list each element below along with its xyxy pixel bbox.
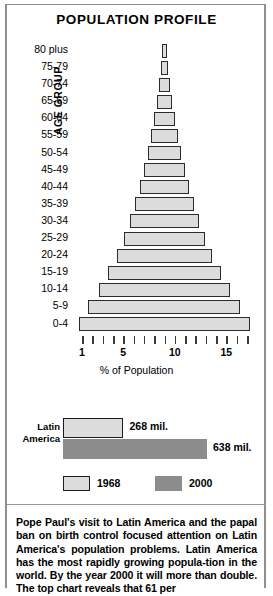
- axis-tick: [82, 336, 84, 344]
- pyramid-bar: [140, 180, 190, 194]
- pyramid-row: 15-19: [0, 264, 273, 281]
- age-group-label: 40-44: [0, 180, 68, 192]
- pyramid-row: 25-29: [0, 230, 273, 247]
- pyramid-row: 70-74: [0, 76, 273, 93]
- axis-tick-label: 15: [221, 346, 233, 358]
- age-group-label: 10-14: [0, 282, 68, 294]
- axis-tick: [165, 336, 167, 344]
- pyramid-row: 80 plus: [0, 42, 273, 59]
- population-pyramid-chart: 80 plus75-7970-7465-6960-6455-5950-5445-…: [0, 42, 273, 334]
- legend-label: 1968: [97, 477, 120, 489]
- age-group-label: 25-29: [0, 231, 68, 243]
- pyramid-bar: [144, 163, 186, 177]
- pyramid-row: 10-14: [0, 281, 273, 298]
- age-group-label: 80 plus: [0, 43, 68, 55]
- pyramid-bar: [130, 214, 199, 228]
- pyramid-row: 55-59: [0, 127, 273, 144]
- axis-tick: [92, 336, 94, 344]
- comparison-bar-2000: [63, 439, 207, 459]
- pyramid-bar: [151, 129, 178, 143]
- legend-swatch-2000: [155, 476, 182, 491]
- axis-tick-label: 10: [169, 346, 181, 358]
- axis-tick: [134, 336, 136, 344]
- pyramid-bar: [148, 146, 181, 160]
- axis-tick: [175, 336, 177, 344]
- axis-tick: [247, 336, 249, 344]
- pyramid-bar: [108, 266, 220, 280]
- region-label-line1: Latin: [37, 421, 60, 432]
- pyramid-bar: [162, 44, 167, 58]
- age-group-label: 20-24: [0, 248, 68, 260]
- comparison-bar-value: 638 mil.: [213, 441, 252, 453]
- axis-tick: [154, 336, 156, 344]
- axis-tick: [206, 336, 208, 344]
- pyramid-bar: [135, 197, 193, 211]
- pyramid-bar: [157, 95, 172, 109]
- age-group-label: 30-34: [0, 214, 68, 226]
- comparison-bar-value: 268 mil.: [129, 420, 168, 432]
- axis-tick-label: 5: [120, 346, 126, 358]
- axis-tick: [144, 336, 146, 344]
- age-group-label: 35-39: [0, 197, 68, 209]
- pyramid-bar: [154, 112, 175, 126]
- pyramid-row: 20-24: [0, 247, 273, 264]
- pyramid-row: 30-34: [0, 213, 273, 230]
- pyramid-bar: [159, 78, 169, 92]
- pyramid-bar: [117, 249, 213, 263]
- chart-legend: 19682000: [0, 474, 273, 498]
- axis-tick: [185, 336, 187, 344]
- pyramid-row: 45-49: [0, 162, 273, 179]
- pyramid-row: 35-39: [0, 196, 273, 213]
- age-group-label: 5-9: [0, 299, 68, 311]
- pyramid-row: 5-9: [0, 298, 273, 315]
- pyramid-row: 40-44: [0, 179, 273, 196]
- pyramid-bar: [99, 283, 230, 297]
- comparison-chart: Latin America 268 mil.638 mil.: [0, 408, 273, 470]
- caption-divider: [7, 504, 266, 505]
- age-group-label: 15-19: [0, 265, 68, 277]
- comparison-region-label: Latin America: [8, 421, 60, 445]
- x-axis-title: % of Population: [0, 364, 273, 376]
- age-group-label: 0-4: [0, 317, 68, 329]
- age-group-label: 50-54: [0, 146, 68, 158]
- axis-tick: [123, 336, 125, 344]
- pyramid-bar: [88, 300, 240, 314]
- page-title: POPULATION PROFILE: [0, 12, 273, 27]
- pyramid-row: 60-64: [0, 110, 273, 127]
- comparison-bar-1968: [63, 418, 123, 438]
- axis-tick: [216, 336, 218, 344]
- pyramid-row: 75-79: [0, 59, 273, 76]
- axis-tick: [226, 336, 228, 344]
- pyramid-row: 65-69: [0, 93, 273, 110]
- pyramid-bar: [79, 317, 251, 331]
- y-axis-title: AGE GROUP: [52, 66, 64, 135]
- axis-tick: [113, 336, 115, 344]
- pyramid-bar: [124, 232, 205, 246]
- age-group-label: 45-49: [0, 163, 68, 175]
- caption-text: Pope Paul's visit to Latin America and t…: [16, 516, 257, 596]
- legend-label: 2000: [189, 477, 212, 489]
- axis-tick: [237, 336, 239, 344]
- pyramid-row: 50-54: [0, 145, 273, 162]
- x-axis: % of Population 151015: [0, 336, 273, 388]
- legend-swatch-1968: [63, 476, 90, 491]
- axis-tick-label: 1: [79, 346, 85, 358]
- region-label-line2: America: [23, 433, 61, 444]
- axis-tick: [103, 336, 105, 344]
- pyramid-bar: [161, 61, 168, 75]
- pyramid-row: 0-4: [0, 316, 273, 333]
- axis-tick: [195, 336, 197, 344]
